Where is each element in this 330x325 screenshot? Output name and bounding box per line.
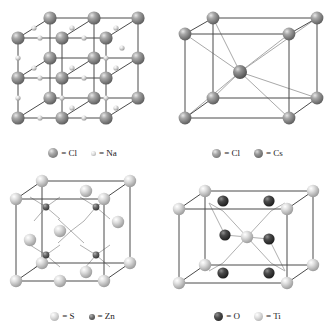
legend-label-cl: = Cl [61,149,77,158]
legend-label-na: = Na [99,149,117,158]
panel-cscl: = Cl = Cs [165,0,330,162]
legend-tio2: = O = Ti [165,312,330,321]
panel-tio2: = O = Ti [165,163,330,325]
ti-sphere-icon [254,312,263,321]
nacl-structure-diagram [0,0,165,140]
legend-label-zn: = Zn [98,312,115,321]
panel-zns: = S = Zn [0,163,165,325]
cl-sphere-icon [212,149,221,158]
legend-label-cl: = Cl [224,149,240,158]
legend-label-o: = O [226,312,240,321]
legend-entry-zn: = Zn [89,312,115,321]
crystal-structures-figure: = Cl = Na [0,0,330,325]
cscl-structure-diagram [165,0,330,140]
legend-label-s: = S [62,312,74,321]
zn-sphere-icon [89,314,95,320]
legend-cscl: = Cl = Cs [165,149,330,158]
legend-label-ti: = Ti [266,312,281,321]
cs-sphere-icon [254,149,263,158]
legend-entry-na: = Na [91,149,117,158]
na-sphere-icon [91,151,96,156]
cl-sphere-icon [48,148,58,158]
legend-nacl: = Cl = Na [0,148,165,158]
panel-nacl: = Cl = Na [0,0,165,162]
o-sphere-icon [214,312,223,321]
tio2-structure-diagram [165,163,330,303]
legend-zns: = S = Zn [0,312,165,321]
legend-entry-cl: = Cl [48,148,77,158]
zns-structure-diagram [0,163,165,303]
legend-entry-cs: = Cs [254,149,283,158]
legend-entry-cl: = Cl [212,149,240,158]
legend-entry-ti: = Ti [254,312,281,321]
s-sphere-icon [50,312,59,321]
legend-entry-o: = O [214,312,240,321]
legend-entry-s: = S [50,312,74,321]
legend-label-cs: = Cs [266,149,283,158]
